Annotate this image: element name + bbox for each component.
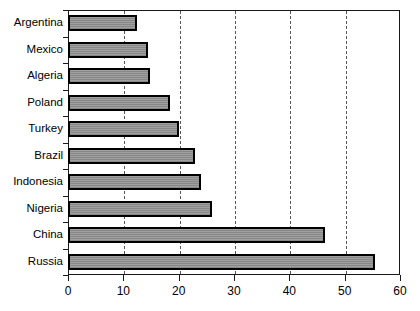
bar-algeria xyxy=(68,68,150,84)
x-tick-label-0: 0 xyxy=(48,284,88,298)
category-axis: ArgentinaMexicoAlgeriaPolandTurkeyBrazil… xyxy=(0,10,63,275)
x-tick-10 xyxy=(123,275,124,281)
x-tick-30 xyxy=(234,275,235,281)
x-tick-20 xyxy=(179,275,180,281)
category-label-russia: Russia xyxy=(0,255,63,268)
x-tick-label-40: 40 xyxy=(269,284,309,298)
category-label-brazil: Brazil xyxy=(0,149,63,162)
bar-turkey xyxy=(68,121,179,137)
bar-mexico xyxy=(68,42,148,58)
bar-row xyxy=(68,196,400,223)
bar-argentina xyxy=(68,15,137,31)
bar-russia xyxy=(68,254,375,270)
bar-nigeria xyxy=(68,201,212,217)
bar-row xyxy=(68,143,400,170)
bar-row xyxy=(68,169,400,196)
category-label-indonesia: Indonesia xyxy=(0,175,63,188)
x-tick-0 xyxy=(68,275,69,281)
x-tick-60 xyxy=(400,275,401,281)
bar-row xyxy=(68,63,400,90)
x-tick-label-50: 50 xyxy=(325,284,365,298)
category-label-china: China xyxy=(0,228,63,241)
bar-row xyxy=(68,90,400,117)
bar-poland xyxy=(68,95,170,111)
bar-row xyxy=(68,37,400,64)
x-tick-40 xyxy=(289,275,290,281)
bars-layer xyxy=(68,10,400,275)
category-label-algeria: Algeria xyxy=(0,69,63,82)
category-label-poland: Poland xyxy=(0,96,63,109)
bar-brazil xyxy=(68,148,195,164)
bar-row xyxy=(68,222,400,249)
category-label-mexico: Mexico xyxy=(0,43,63,56)
bar-row xyxy=(68,116,400,143)
x-tick-label-10: 10 xyxy=(103,284,143,298)
x-tick-label-20: 20 xyxy=(159,284,199,298)
bar-indonesia xyxy=(68,174,201,190)
category-label-turkey: Turkey xyxy=(0,122,63,135)
bar-row xyxy=(68,10,400,37)
horizontal-bar-chart: ArgentinaMexicoAlgeriaPolandTurkeyBrazil… xyxy=(0,0,420,311)
bar-china xyxy=(68,227,325,243)
x-tick-label-60: 60 xyxy=(380,284,420,298)
x-tick-label-30: 30 xyxy=(214,284,254,298)
value-axis: 0102030405060 xyxy=(68,275,400,311)
category-label-nigeria: Nigeria xyxy=(0,202,63,215)
bar-row xyxy=(68,249,400,276)
category-label-argentina: Argentina xyxy=(0,16,63,29)
x-tick-50 xyxy=(345,275,346,281)
